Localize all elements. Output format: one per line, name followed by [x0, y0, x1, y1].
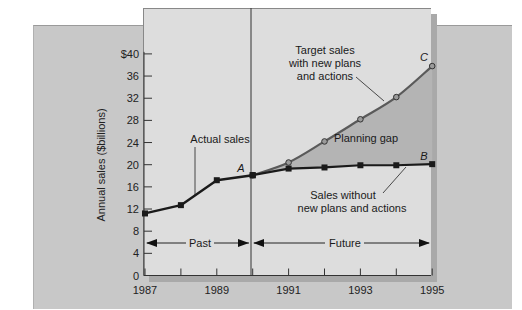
- x-tick-label: 1989: [205, 284, 229, 296]
- data-point-marker: [429, 63, 435, 69]
- planning-gap-label: Planning gap: [334, 132, 398, 144]
- x-tick-label: 1993: [348, 284, 372, 296]
- target-label-line2: with new plans: [288, 57, 362, 69]
- y-tick-label: 36: [127, 70, 139, 82]
- data-point-marker: [142, 210, 148, 216]
- past-arrow: Past: [146, 237, 249, 249]
- data-point-marker: [322, 164, 328, 170]
- planning-gap-area: [253, 66, 433, 175]
- past-label: Past: [189, 237, 211, 249]
- y-tick-label: 8: [133, 225, 139, 237]
- data-point-marker: [286, 160, 292, 166]
- target-leader: [356, 77, 384, 101]
- x-tick-label: 1991: [276, 284, 300, 296]
- y-tick-label: 24: [127, 137, 139, 149]
- x-tick-label: 1995: [420, 284, 444, 296]
- data-point-marker: [322, 139, 328, 145]
- data-point-marker: [394, 94, 400, 100]
- y-tick-label: 12: [127, 203, 139, 215]
- y-tick-label: $40: [121, 48, 139, 60]
- y-tick-label: 28: [127, 114, 139, 126]
- y-axis: 04812162024283236$40: [121, 48, 152, 282]
- y-tick-label: 0: [133, 270, 139, 282]
- target-label-line3: and actions: [297, 70, 354, 82]
- data-point-marker: [178, 202, 184, 208]
- line-chart: Annual sales ($billions) 048121620242832…: [0, 0, 522, 310]
- future-label: Future: [329, 237, 361, 249]
- x-axis: 19871989199119931995: [133, 269, 445, 297]
- actual-sales-label: Actual sales: [190, 133, 250, 145]
- point-b-label: B: [420, 150, 427, 162]
- without-label-line1: Sales without: [310, 189, 375, 201]
- data-point-marker: [358, 116, 364, 122]
- data-point-marker: [286, 166, 292, 172]
- y-tick-label: 16: [127, 181, 139, 193]
- point-c-label: C: [420, 51, 428, 63]
- x-tick-label: 1987: [133, 284, 157, 296]
- future-arrow: Future: [253, 237, 430, 249]
- data-point-marker: [214, 177, 220, 183]
- y-tick-label: 32: [127, 92, 139, 104]
- without-leader: [383, 167, 406, 193]
- y-tick-label: 4: [133, 247, 139, 259]
- data-point-marker: [429, 161, 435, 167]
- data-point-marker: [393, 162, 399, 168]
- actual-sales-line: [142, 172, 256, 216]
- without-label-line2: new plans and actions: [298, 202, 407, 214]
- target-label-line1: Target sales: [295, 44, 355, 56]
- data-point-marker: [250, 172, 256, 178]
- point-a-label: A: [236, 162, 244, 174]
- y-tick-label: 20: [127, 159, 139, 171]
- y-axis-label: Annual sales ($billions): [95, 108, 107, 221]
- data-point-marker: [357, 162, 363, 168]
